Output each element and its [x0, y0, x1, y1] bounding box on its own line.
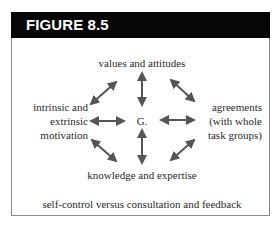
- node-motivation: intrinsic and extrinsic motivation: [22, 100, 88, 142]
- arrow-top-left: [91, 82, 116, 104]
- node-agreements-line-2: (with whole: [196, 114, 262, 128]
- arrow-top-right: [171, 80, 194, 101]
- node-motivation-line-2: extrinsic: [22, 114, 88, 128]
- figure-caption: self-control versus consultation and fee…: [14, 197, 270, 211]
- node-values-attitudes: values and attitudes: [80, 56, 204, 70]
- node-agreements-line-3: task groups): [196, 128, 262, 142]
- arrow-bottom-left: [92, 140, 116, 161]
- node-knowledge-expertise: knowledge and expertise: [70, 168, 214, 182]
- node-motivation-line-1: intrinsic and: [22, 100, 88, 114]
- node-center-g: G.: [130, 114, 154, 128]
- node-agreements-line-1: agreements: [196, 100, 262, 114]
- arrow-bottom-right: [171, 140, 194, 160]
- node-motivation-line-3: motivation: [22, 128, 88, 142]
- node-agreements: agreements (with whole task groups): [196, 100, 262, 142]
